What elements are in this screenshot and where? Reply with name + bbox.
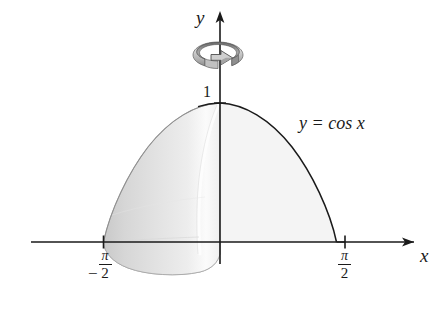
solid-of-revolution-diagram xyxy=(0,0,437,310)
y-axis-label: y xyxy=(196,8,204,27)
x-axis-label: x xyxy=(420,246,428,265)
solid-left-lobe xyxy=(104,103,221,275)
minus-sign: − xyxy=(88,265,98,282)
fraction-numerator: π xyxy=(339,249,350,264)
figure-canvas: y x 1 y = cos x − π 2 π 2 xyxy=(0,0,437,310)
fraction-denominator: 2 xyxy=(101,265,109,281)
curve-equation-label: y = cos x xyxy=(299,114,365,132)
rotation-arrow-icon xyxy=(193,42,243,69)
fraction-stack-right: π 2 xyxy=(338,249,351,281)
x-tick-label-left: − π 2 xyxy=(88,249,112,281)
y-tick-label-one: 1 xyxy=(203,84,211,100)
solid-of-revolution xyxy=(104,103,221,275)
fraction-denominator: 2 xyxy=(341,265,349,281)
fraction-numerator: π xyxy=(100,249,111,264)
x-tick-label-right: π 2 xyxy=(338,249,351,281)
fraction-stack-left: π 2 xyxy=(99,249,112,281)
